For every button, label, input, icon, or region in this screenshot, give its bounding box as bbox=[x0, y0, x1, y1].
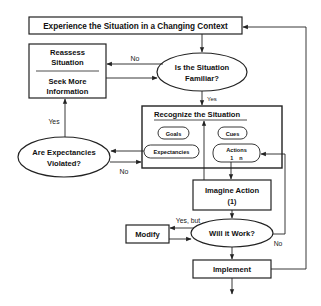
reassess-label-2: Situation bbox=[51, 58, 84, 67]
actions-item: Actions 1 n bbox=[213, 144, 260, 162]
modify-node: Modify bbox=[126, 225, 169, 243]
will-work-decision: Will it Work? bbox=[191, 219, 273, 247]
seek-info-label-2: Information bbox=[47, 87, 89, 96]
familiar-decision: Is the Situation Familiar? bbox=[157, 53, 247, 91]
violated-decision: Are Expectancies Violated? bbox=[18, 137, 110, 177]
violated-label-2: Violated? bbox=[47, 159, 81, 168]
cues-item: Cues bbox=[218, 127, 247, 139]
actions-range-label: 1 n bbox=[230, 155, 242, 161]
familiar-label-2: Familiar? bbox=[185, 74, 219, 83]
expectancies-label: Expectancies bbox=[154, 149, 190, 155]
seek-info-label-1: Seek More bbox=[49, 77, 87, 86]
violated-no-label: No bbox=[120, 168, 129, 175]
experience-label: Experience the Situation in a Changing C… bbox=[43, 22, 228, 31]
imagine-node: Imagine Action (1) bbox=[193, 180, 271, 210]
goals-item: Goals bbox=[158, 127, 189, 139]
expectancies-item: Expectancies bbox=[144, 145, 199, 158]
reassess-node: Reassess Situation Seek More Information bbox=[29, 44, 106, 98]
will-work-label: Will it Work? bbox=[209, 229, 255, 238]
recognize-title: Recognize the Situation bbox=[154, 110, 240, 119]
goals-label: Goals bbox=[166, 131, 182, 137]
reassess-label-1: Reassess bbox=[50, 48, 85, 57]
violated-label-1: Are Expectancies bbox=[32, 148, 95, 157]
modify-label: Modify bbox=[135, 230, 160, 239]
experience-node: Experience the Situation in a Changing C… bbox=[29, 17, 242, 34]
violated-yes-label: Yes bbox=[48, 118, 60, 125]
flowchart-canvas: Experience the Situation in a Changing C… bbox=[0, 0, 321, 306]
cues-label: Cues bbox=[226, 131, 240, 137]
recognize-node: Recognize the Situation Goals Cues Expec… bbox=[142, 106, 282, 168]
will-work-yes-but-label: Yes, but bbox=[176, 217, 200, 224]
actions-label: Actions bbox=[226, 147, 247, 153]
imagine-label-2: (1) bbox=[228, 197, 237, 206]
implement-label: Implement bbox=[213, 265, 251, 274]
implement-node: Implement bbox=[193, 260, 271, 278]
familiar-no-label: No bbox=[131, 55, 140, 62]
will-work-no-label: No bbox=[274, 240, 283, 247]
familiar-label-1: Is the Situation bbox=[175, 63, 230, 72]
familiar-yes-label: Yes bbox=[207, 96, 217, 102]
imagine-label-1: Imagine Action bbox=[205, 186, 260, 195]
